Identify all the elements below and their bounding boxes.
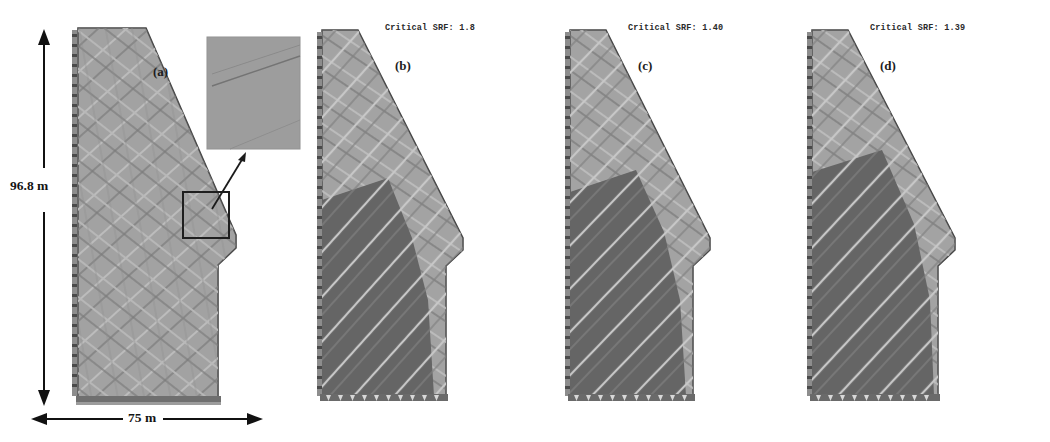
srf-label-b: Critical SRF: 1.8 <box>385 23 475 33</box>
roller-boundary-marker-left-b <box>317 32 322 396</box>
arrow-head-left <box>31 413 47 425</box>
panel-letter-c: (c) <box>638 58 652 74</box>
fixed-boundary-marker-base-b <box>320 394 448 401</box>
panel-c-artwork <box>550 0 790 442</box>
arrow-head-right <box>247 413 263 425</box>
rock-mass-body-c <box>550 20 750 410</box>
panel-d-artwork <box>790 0 1050 442</box>
panel-b-artwork <box>300 0 550 442</box>
srf-label-c: Critical SRF: 1.40 <box>628 23 723 33</box>
rock-mass-body-d <box>790 20 1000 410</box>
fixed-boundary-marker-base-d <box>810 394 940 401</box>
panel-letter-b: (b) <box>395 58 411 74</box>
panel-b: Critical SRF: 1.8 (b) <box>300 0 550 442</box>
slope-stability-figure: 96.8 m 75 m (a) <box>0 0 1050 442</box>
roller-boundary-marker-left-a <box>72 30 77 396</box>
panel-a-artwork <box>0 0 300 442</box>
width-dimension-label: 75 m <box>128 410 156 426</box>
roller-boundary-marker-left-c <box>565 32 570 396</box>
panel-letter-a: (a) <box>153 64 168 80</box>
panel-d: Critical SRF: 1.39 (d) <box>790 0 1050 442</box>
fixed-boundary-marker-base-c <box>568 394 695 401</box>
panel-c: Critical SRF: 1.40 (c) <box>550 0 790 442</box>
srf-label-d: Critical SRF: 1.39 <box>870 23 965 33</box>
rock-mass-body-b <box>300 20 500 410</box>
panel-letter-d: (d) <box>880 58 896 74</box>
arrow-head-up <box>38 29 50 45</box>
panel-a: 96.8 m 75 m (a) <box>0 0 300 442</box>
inset-detail-box-a <box>207 37 300 149</box>
fixed-boundary-marker-base-a <box>76 396 221 405</box>
height-dimension-label: 96.8 m <box>10 178 48 194</box>
roller-boundary-marker-left-d <box>807 32 812 396</box>
arrow-head-down <box>38 390 50 406</box>
